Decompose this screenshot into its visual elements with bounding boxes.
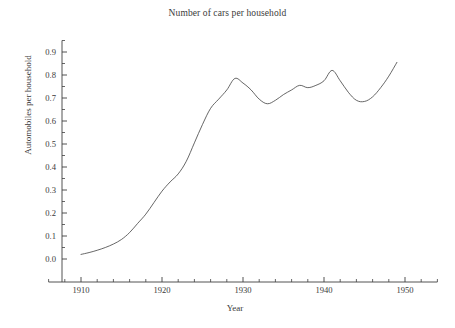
series-line (81, 62, 397, 254)
y-tick-label: 0.4 (45, 162, 56, 172)
y-tick-label: 0.7 (45, 93, 56, 103)
x-tick-label: 1950 (396, 285, 413, 295)
plot-area: 0.00.10.20.30.40.50.60.70.80.9 191019201… (0, 0, 455, 328)
x-axis: 19101920193019401950 (49, 277, 438, 295)
y-axis: 0.00.10.20.30.40.50.60.70.80.9 (45, 41, 67, 283)
x-tick-label: 1930 (234, 285, 251, 295)
y-tick-label: 0.9 (45, 47, 56, 57)
y-tick-label: 0.1 (45, 231, 56, 241)
x-tick-label: 1910 (72, 285, 89, 295)
x-tick-label: 1920 (153, 285, 170, 295)
y-tick-label: 0.0 (45, 254, 56, 264)
chart-figure: Number of cars per household Automobiles… (0, 0, 455, 328)
x-tick-label: 1940 (315, 285, 332, 295)
y-tick-label: 0.2 (45, 208, 56, 218)
y-tick-label: 0.3 (45, 185, 56, 195)
y-tick-label: 0.6 (45, 116, 56, 126)
data-series-group (81, 62, 397, 254)
y-tick-label: 0.8 (45, 70, 56, 80)
y-tick-label: 0.5 (45, 139, 56, 149)
